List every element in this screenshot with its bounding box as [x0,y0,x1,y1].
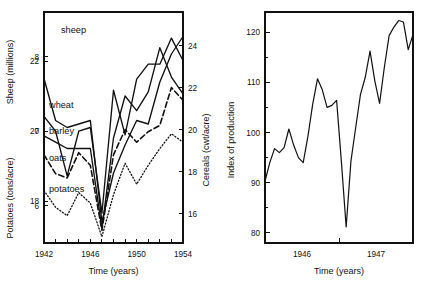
y-tick-label-cereals: 22 [188,84,198,93]
series-label-sheep: sheep [61,25,86,35]
x-tick-label: 1946 [293,250,312,259]
right-chart-svg: 8090100110120Index of production19461947… [215,0,431,288]
x-axis-title: Time (years) [314,266,364,276]
y-axis-title-cereals: Cereals (cwt/acre) [201,113,211,186]
y-tick-label-potatoes: 8 [34,53,39,62]
y-tick-label-cereals: 18 [188,168,198,177]
x-tick-label: 1946 [81,250,100,259]
series-label-oats: oats [49,153,67,163]
left-panel-agricultural-series: 1942194619501954Time (years)182022678She… [0,0,215,288]
y-tick-label-cereals: 24 [188,42,198,51]
y-tick-label: 80 [251,229,261,238]
y-tick-label: 120 [246,28,260,37]
series-label-potatoes: potatoes [49,184,85,194]
y-tick-label: 110 [247,78,260,87]
x-tick-label: 1950 [128,250,147,259]
y-tick-label-potatoes: 6 [34,202,39,211]
y-tick-label: 100 [246,129,260,138]
y-tick-label-potatoes: 7 [34,127,39,136]
y-axis-title: Index of production [226,102,236,179]
y-axis-title-sheep: Sheep (millions) [5,40,15,105]
x-tick-label: 1942 [35,250,54,259]
right-panel-production-index: 8090100110120Index of production19461947… [215,0,431,288]
series-line-index-of-production [265,21,413,227]
left-chart-svg: 1942194619501954Time (years)182022678She… [0,0,215,288]
series-label-wheat: wheat [48,100,74,110]
y-axis-title-potatoes: Potatoes (tons/acre) [5,157,15,238]
series-label-barley: barley [49,126,74,136]
x-tick-label: 1947 [367,250,386,259]
two-panel-line-chart-figure: 1942194619501954Time (years)182022678She… [0,0,431,288]
y-tick-label: 90 [251,179,261,188]
y-tick-label-cereals: 20 [188,126,198,135]
x-axis-title: Time (years) [88,266,138,276]
x-tick-label: 1954 [174,250,193,259]
y-tick-label-cereals: 16 [188,210,198,219]
